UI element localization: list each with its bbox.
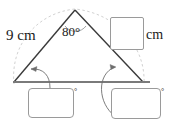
apex-angle-label: 80° (62, 25, 80, 38)
side-length-label-left: 9 cm (6, 28, 36, 43)
arrowhead-left-angle (31, 67, 37, 72)
answer-box-right-base-angle[interactable] (111, 88, 161, 119)
answer-box-unknown-side[interactable] (110, 17, 144, 50)
triangle-side-left (14, 10, 75, 82)
degree-symbol-right: ° (161, 88, 164, 96)
answer-box-left-base-angle[interactable] (28, 88, 74, 118)
arrowhead-right-angle (110, 65, 116, 70)
degree-symbol-left: ° (74, 88, 77, 96)
pointer-arrow-left-angle (31, 69, 50, 88)
unit-label-cm: cm (146, 28, 163, 42)
diagram-canvas: 9 cm 80° cm ° ° (0, 0, 174, 125)
